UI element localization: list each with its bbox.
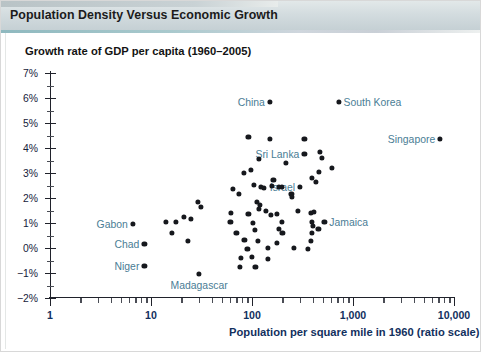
banner-shade: [1, 1, 278, 7]
x-tick-minor: [424, 298, 425, 303]
data-point: [266, 256, 271, 261]
data-point: [329, 165, 334, 170]
x-tick-minor: [230, 298, 231, 303]
y-tick: [45, 173, 56, 174]
data-point: [245, 247, 250, 252]
y-tick-label: 7%: [23, 68, 38, 79]
data-point-china: [267, 99, 272, 104]
y-tick: [45, 198, 56, 199]
y-tick-minor: [47, 211, 54, 212]
data-point: [319, 155, 324, 160]
data-point: [228, 219, 233, 224]
y-tick-minor: [47, 111, 54, 112]
data-point: [316, 169, 321, 174]
data-point: [237, 264, 242, 269]
y-tick: [45, 273, 56, 274]
data-point: [252, 227, 257, 232]
x-tick-label: 100: [243, 309, 261, 321]
data-point: [252, 182, 257, 187]
x-tick-minor: [401, 298, 402, 303]
y-tick: [45, 248, 56, 249]
data-point: [231, 187, 236, 192]
data-point: [246, 212, 251, 217]
data-point: [310, 223, 315, 228]
data-point: [163, 219, 168, 224]
data-point: [228, 210, 233, 215]
data-point: [246, 134, 251, 139]
data-point-jamaica: [322, 219, 327, 224]
data-point: [169, 230, 174, 235]
data-point: [279, 219, 284, 224]
x-tick-minor: [348, 298, 349, 303]
x-tick-minor: [313, 298, 314, 303]
x-tick-label: 1: [47, 309, 53, 321]
data-point: [268, 212, 273, 217]
x-tick: [454, 298, 455, 306]
data-point: [234, 230, 239, 235]
x-tick-minor: [300, 298, 301, 303]
x-tick-minor: [414, 298, 415, 303]
data-point: [189, 217, 194, 222]
data-point-label: Singapore: [388, 134, 435, 145]
data-point-label: South Korea: [344, 96, 402, 107]
data-point: [249, 254, 254, 259]
x-tick: [50, 298, 51, 306]
data-point: [181, 214, 186, 219]
y-tick-label: 5%: [23, 118, 38, 129]
data-point-sri-lanka: [302, 152, 307, 157]
data-point-label: Madagascar: [171, 280, 228, 291]
page-title: Population Density Versus Economic Growt…: [10, 8, 278, 22]
y-tick-label: −2%: [17, 293, 38, 304]
y-tick-label: 3%: [23, 168, 38, 179]
data-point: [262, 185, 267, 190]
y-tick: [45, 223, 56, 224]
y-axis-title: Growth rate of GDP per capita (1960–2005…: [25, 45, 251, 57]
x-tick-minor: [282, 298, 283, 303]
x-tick-minor: [199, 298, 200, 303]
banner-underline: [1, 30, 481, 33]
data-point: [309, 230, 314, 235]
y-tick-minor: [47, 286, 54, 287]
data-point: [256, 206, 261, 211]
x-tick: [252, 298, 253, 306]
data-point-label: Gabon: [97, 219, 128, 230]
x-tick-minor: [449, 298, 450, 303]
y-tick-minor: [47, 86, 54, 87]
left-rule: [5, 33, 6, 349]
x-axis-title: Population per square mile in 1960 (rati…: [229, 326, 480, 338]
data-point: [316, 226, 321, 231]
plot-area: 7%6%5%4%3%2%1%0%−1%−2% 1101001,00010,000…: [50, 73, 454, 298]
y-tick-label: 2%: [23, 193, 38, 204]
y-tick: [45, 148, 56, 149]
data-point: [251, 220, 256, 225]
x-tick-minor: [343, 298, 344, 303]
y-tick-label: 4%: [23, 143, 38, 154]
data-point-label: China: [238, 96, 265, 107]
y-tick-minor: [47, 236, 54, 237]
x-tick-minor: [432, 298, 433, 303]
x-tick-minor: [80, 298, 81, 303]
y-tick-minor: [47, 161, 54, 162]
data-point: [302, 137, 307, 142]
data-point: [249, 167, 254, 172]
x-tick-minor: [438, 298, 439, 303]
data-point: [256, 238, 261, 243]
data-point: [292, 245, 297, 250]
data-point: [284, 160, 289, 165]
y-tick: [45, 73, 56, 74]
y-tick-label: 6%: [23, 93, 38, 104]
data-point: [274, 240, 279, 245]
data-point: [198, 204, 203, 209]
data-point-label: Jamaica: [329, 216, 368, 227]
y-tick: [45, 123, 56, 124]
y-tick-minor: [47, 136, 54, 137]
data-point: [267, 137, 272, 142]
x-tick-minor: [247, 298, 248, 303]
y-tick-label: 1%: [23, 218, 38, 229]
data-point: [308, 238, 313, 243]
data-point: [280, 230, 285, 235]
x-tick-minor: [242, 298, 243, 303]
x-tick-minor: [331, 298, 332, 303]
x-tick-minor: [337, 298, 338, 303]
x-tick-minor: [444, 298, 445, 303]
